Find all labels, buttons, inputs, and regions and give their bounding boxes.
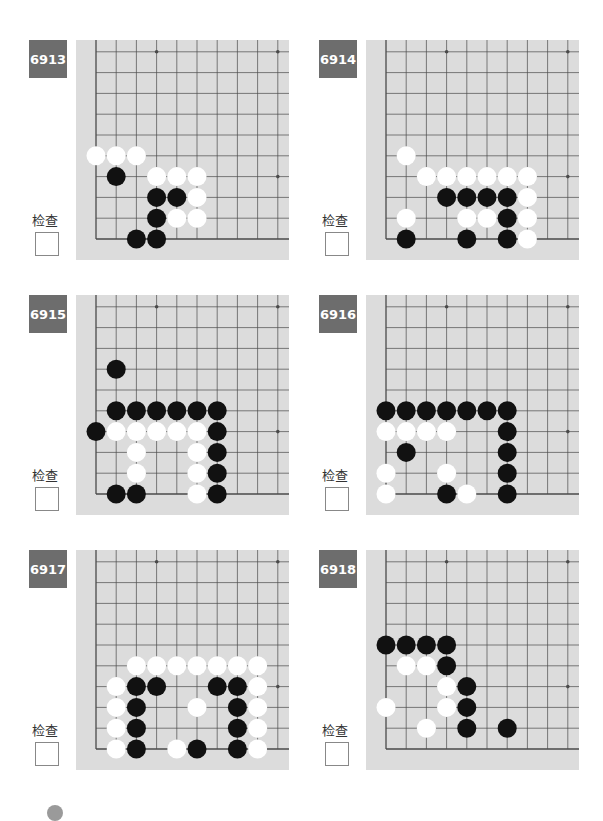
- check-checkbox[interactable]: [35, 232, 59, 256]
- white-stone: [457, 209, 476, 228]
- white-stone: [377, 464, 396, 483]
- white-stone: [147, 422, 166, 441]
- white-stone: [248, 677, 267, 696]
- white-stone: [127, 656, 146, 675]
- white-stone: [377, 698, 396, 717]
- check-checkbox[interactable]: [325, 232, 349, 256]
- black-stone: [377, 636, 396, 655]
- white-stone: [437, 422, 456, 441]
- star-point: [155, 50, 159, 54]
- problem-number-tag: 6913: [29, 40, 67, 78]
- board-grid: [366, 295, 579, 515]
- white-stone: [457, 167, 476, 186]
- white-stone: [127, 464, 146, 483]
- check-label: 检查: [32, 465, 58, 484]
- white-stone: [147, 656, 166, 675]
- go-board: [366, 40, 579, 260]
- go-board: [76, 295, 289, 515]
- white-stone: [518, 167, 537, 186]
- black-stone: [498, 485, 517, 504]
- white-stone: [248, 698, 267, 717]
- star-point: [445, 560, 449, 564]
- white-stone: [208, 656, 227, 675]
- white-stone: [248, 740, 267, 759]
- white-stone: [417, 656, 436, 675]
- star-point: [445, 50, 449, 54]
- black-stone: [127, 698, 146, 717]
- black-stone: [228, 698, 247, 717]
- black-stone: [437, 188, 456, 207]
- black-stone: [457, 401, 476, 420]
- problem-number-tag: 6915: [29, 295, 67, 333]
- black-stone: [397, 636, 416, 655]
- white-stone: [87, 146, 106, 165]
- black-stone: [167, 188, 186, 207]
- white-stone: [107, 677, 126, 696]
- white-stone: [397, 656, 416, 675]
- white-stone: [127, 443, 146, 462]
- black-stone: [478, 401, 497, 420]
- white-stone: [518, 188, 537, 207]
- black-stone: [417, 401, 436, 420]
- white-stone: [107, 422, 126, 441]
- white-stone: [127, 146, 146, 165]
- star-point: [276, 430, 280, 434]
- black-stone: [437, 485, 456, 504]
- white-stone: [188, 464, 207, 483]
- white-stone: [188, 656, 207, 675]
- black-stone: [208, 422, 227, 441]
- go-board: [366, 550, 579, 770]
- star-point: [445, 305, 449, 309]
- white-stone: [107, 740, 126, 759]
- check-label: 检查: [32, 720, 58, 739]
- white-stone: [228, 656, 247, 675]
- black-stone: [397, 230, 416, 249]
- white-stone: [498, 167, 517, 186]
- black-stone: [457, 230, 476, 249]
- check-label: 检查: [322, 720, 348, 739]
- check-checkbox[interactable]: [325, 487, 349, 511]
- check-checkbox[interactable]: [35, 487, 59, 511]
- black-stone: [208, 401, 227, 420]
- white-stone: [478, 209, 497, 228]
- black-stone: [437, 636, 456, 655]
- problem-6913: 6913 检查: [29, 40, 319, 265]
- black-stone: [127, 719, 146, 738]
- white-stone: [417, 719, 436, 738]
- board-grid: [366, 550, 579, 770]
- problem-6916: 6916 检查: [319, 295, 603, 520]
- white-stone: [167, 422, 186, 441]
- board-grid: [76, 40, 289, 260]
- check-label: 检查: [322, 210, 348, 229]
- black-stone: [457, 677, 476, 696]
- white-stone: [167, 656, 186, 675]
- problem-number-tag: 6916: [319, 295, 357, 333]
- check-checkbox[interactable]: [35, 742, 59, 766]
- black-stone: [478, 188, 497, 207]
- problem-number-tag: 6917: [29, 550, 67, 588]
- black-stone: [498, 401, 517, 420]
- star-point: [276, 560, 280, 564]
- black-stone: [87, 422, 106, 441]
- black-stone: [188, 740, 207, 759]
- black-stone: [228, 740, 247, 759]
- star-point: [566, 685, 570, 689]
- check-checkbox[interactable]: [325, 742, 349, 766]
- star-point: [566, 175, 570, 179]
- black-stone: [208, 677, 227, 696]
- black-stone: [457, 698, 476, 717]
- black-stone: [107, 485, 126, 504]
- star-point: [276, 685, 280, 689]
- star-point: [566, 430, 570, 434]
- white-stone: [377, 422, 396, 441]
- black-stone: [208, 464, 227, 483]
- star-point: [276, 175, 280, 179]
- star-point: [276, 50, 280, 54]
- problem-number-tag: 6914: [319, 40, 357, 78]
- white-stone: [188, 422, 207, 441]
- black-stone: [208, 443, 227, 462]
- black-stone: [498, 719, 517, 738]
- black-stone: [147, 677, 166, 696]
- white-stone: [437, 698, 456, 717]
- white-stone: [167, 209, 186, 228]
